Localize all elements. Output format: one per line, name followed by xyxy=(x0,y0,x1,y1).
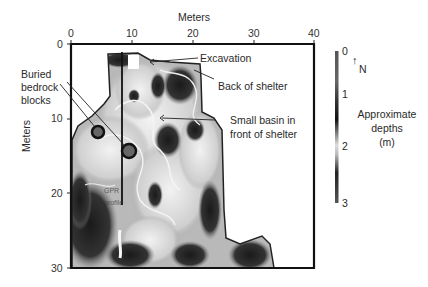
x-tick-20: 20 xyxy=(187,27,199,39)
x-tick-30: 30 xyxy=(248,27,260,39)
north-label: N xyxy=(359,63,367,75)
label-faint-1: GPR xyxy=(104,187,119,194)
colorbar-tick-3: 3 xyxy=(342,197,348,209)
colorbar-tick-1: 1 xyxy=(342,88,348,100)
label-excavation: Excavation xyxy=(200,52,251,64)
y-tick-30: 30 xyxy=(51,262,63,274)
colorbar-title-2: depths xyxy=(352,122,422,134)
label-buried-1: Buried xyxy=(21,68,51,80)
y-tick-0: 0 xyxy=(57,38,63,50)
colorbar-tick-2: 2 xyxy=(342,140,348,152)
label-buried-2: bedrock xyxy=(21,81,58,93)
y-tick-10: 10 xyxy=(51,112,63,124)
colorbar-title-3: (m) xyxy=(352,136,422,148)
bedrock-block-2 xyxy=(122,144,136,158)
north-arrow-icon: ↑ xyxy=(352,55,358,66)
label-back-of-shelter: Back of shelter xyxy=(218,80,287,92)
x-tick-10: 10 xyxy=(126,27,138,39)
colorbar-tick-0: 0 xyxy=(342,45,348,57)
colorbar xyxy=(335,51,339,203)
excavation-box xyxy=(128,55,139,69)
colorbar-title-1: Approximate xyxy=(352,108,422,120)
bedrock-block-1 xyxy=(92,126,104,138)
y-axis-title: Meters xyxy=(20,120,32,152)
x-axis-title: Meters xyxy=(178,11,210,23)
x-tick-0: 0 xyxy=(68,27,74,39)
x-tick-40: 40 xyxy=(308,27,320,39)
label-small-basin-2: front of shelter xyxy=(230,128,297,140)
label-faint-2: profile xyxy=(104,199,123,206)
y-tick-20: 20 xyxy=(51,187,63,199)
label-buried-3: blocks xyxy=(21,94,51,106)
label-small-basin-1: Small basin in xyxy=(230,114,295,126)
